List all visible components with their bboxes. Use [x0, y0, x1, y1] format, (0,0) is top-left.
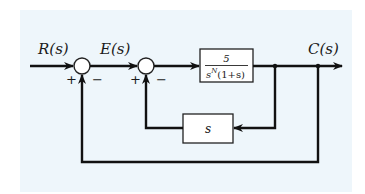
input-label: R(s) [37, 40, 69, 58]
output-label: C(s) [308, 40, 339, 58]
sum1-plus-sign: + [66, 72, 77, 87]
feedback-block-label: s [205, 122, 211, 136]
sum2-plus-sign: + [130, 72, 141, 87]
forward-numerator: 5 [223, 53, 229, 64]
error-label: E(s) [99, 40, 130, 58]
block-diagram: R(s) + − E(s) + − 5 sN(1+s) C(s) s [0, 0, 365, 194]
sum2-minus-sign: − [156, 72, 167, 87]
sum1-minus-sign: − [92, 72, 103, 87]
